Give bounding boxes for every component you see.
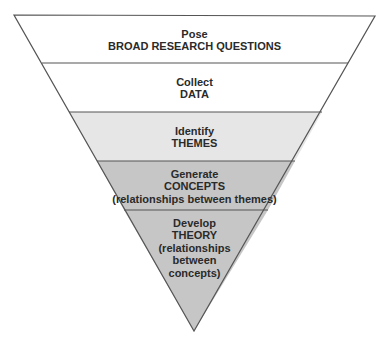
stage-note-line: between [0,254,389,266]
stage-object: BROAD RESEARCH QUESTIONS [0,40,389,52]
stage-collect-label: Collect DATA [0,76,389,101]
stage-identify-label: Identify THEMES [0,125,389,150]
stage-develop-label: Develop THEORY (relationships between co… [0,217,389,279]
stage-note: (relationships between themes) [0,193,389,205]
stage-generate-label: Generate CONCEPTS (relationships between… [0,168,389,205]
stage-note-line: (relationships [0,242,389,254]
stage-object: DATA [0,88,389,100]
stage-verb: Generate [0,168,389,180]
stage-note-line: concepts) [0,267,389,279]
stage-object: CONCEPTS [0,180,389,192]
stage-object: THEMES [0,137,389,149]
stage-pose-label: Pose BROAD RESEARCH QUESTIONS [0,28,389,53]
stage-verb: Collect [0,76,389,88]
stage-verb: Develop [0,217,389,229]
stage-verb: Identify [0,125,389,137]
stage-object: THEORY [0,229,389,241]
stage-verb: Pose [0,28,389,40]
